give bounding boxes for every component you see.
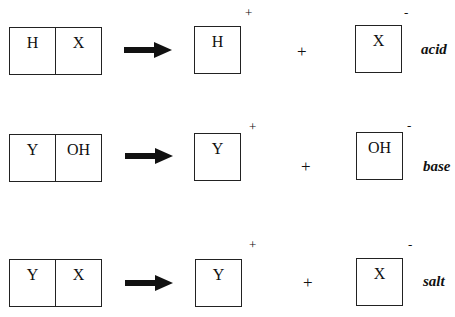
reactant-cation: H — [10, 28, 55, 74]
reactant-compound: H X — [9, 27, 102, 75]
product-cation-box: Y — [195, 259, 242, 307]
right-arrow-icon — [125, 275, 173, 291]
cation-charge: + — [249, 237, 256, 253]
reactant-cation: Y — [10, 260, 55, 306]
reaction-row-acid: H X H + + X - acid — [0, 0, 455, 100]
reaction-label: base — [423, 158, 451, 175]
reactant-anion: X — [55, 260, 101, 306]
product-anion-box: X — [356, 258, 403, 306]
reaction-label: acid — [421, 41, 447, 58]
cation-charge: + — [249, 119, 256, 135]
reaction-row-salt: Y X Y + + X - salt — [0, 232, 455, 317]
reactant-anion: OH — [55, 135, 101, 181]
plus-sign: + — [303, 273, 313, 293]
reactant-anion: X — [55, 28, 101, 74]
plus-sign: + — [297, 42, 307, 62]
reaction-label: salt — [423, 273, 445, 290]
reactant-compound: Y X — [9, 259, 102, 307]
reactant-compound: Y OH — [9, 134, 102, 182]
cation-charge: + — [245, 5, 252, 21]
product-anion-box: X — [355, 25, 402, 73]
plus-sign: + — [301, 157, 311, 177]
product-cation-box: H — [194, 26, 241, 74]
product-anion-box: OH — [356, 132, 403, 180]
reactant-cation: Y — [10, 135, 55, 181]
reaction-row-base: Y OH Y + + OH - base — [0, 107, 455, 207]
anion-charge: - — [408, 237, 412, 253]
right-arrow-icon — [124, 42, 172, 58]
anion-charge: - — [404, 5, 408, 21]
product-cation-box: Y — [194, 133, 241, 181]
right-arrow-icon — [125, 148, 173, 164]
anion-charge: - — [407, 118, 411, 134]
